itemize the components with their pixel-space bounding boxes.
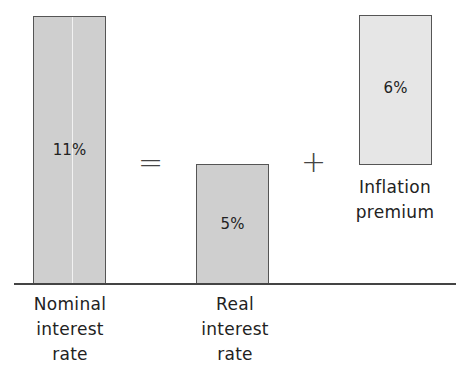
real-rate-label: Real interest rate <box>185 292 285 367</box>
plus-sign: + <box>301 147 326 177</box>
baseline-axis <box>14 283 456 285</box>
inflation-premium-label: Inflation premium <box>345 175 445 225</box>
inflation-premium-value: 6% <box>360 79 431 97</box>
real-rate-value: 5% <box>197 215 268 233</box>
nominal-rate-label: Nominal interest rate <box>20 292 120 367</box>
nominal-rate-bar: 11% <box>33 16 106 284</box>
real-rate-bar: 5% <box>196 164 269 284</box>
equals-sign: = <box>138 148 163 178</box>
inflation-premium-bar: 6% <box>359 15 432 165</box>
nominal-rate-value: 11% <box>34 141 105 159</box>
